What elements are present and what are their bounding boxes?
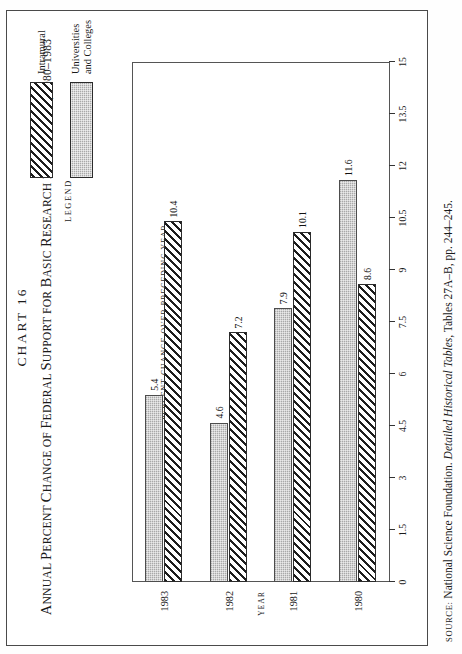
axis-tick-label: 1.5	[397, 524, 408, 536]
axis-tick	[389, 373, 395, 374]
bar-value-label: 10.1	[297, 211, 308, 228]
bar-1982-intramural: 7.2	[229, 332, 247, 582]
axis-tick-label: 7.5	[397, 316, 408, 328]
axis-tick	[389, 165, 395, 166]
year-label-1981: 1981	[288, 591, 299, 611]
bar-1980-intramural: 8.6	[358, 284, 376, 582]
legend-swatch-intramural	[30, 82, 53, 178]
chart-legend: LEGEND Intramural Universities and Colle…	[24, 22, 128, 222]
axis-tick-label: 3	[397, 476, 408, 481]
axis-tick-label: 10.5	[397, 210, 408, 227]
axis-tick-label: 4.5	[397, 420, 408, 432]
axis-tick	[389, 217, 395, 218]
legend-label-intramural: Intramural	[36, 30, 48, 74]
year-label-1983: 1983	[159, 591, 170, 611]
axis-tick	[389, 269, 395, 270]
source-title-italic: Detailed Historical Tables	[442, 338, 454, 460]
bar-1981-intramural: 10.1	[293, 232, 311, 582]
bar-value-label: 10.4	[168, 201, 179, 218]
axis-tick	[389, 61, 395, 62]
source-text-before: National Science Foundation.	[442, 459, 454, 601]
chart-title-text: A	[38, 605, 54, 616]
plot-area: 01.534.567.5910.51213.515 PERCENT CHANGE…	[132, 62, 390, 582]
axis-tick-label: 0	[397, 580, 408, 585]
legend-label-universities-line1: Universities	[70, 24, 81, 74]
legend-swatch-universities	[70, 82, 93, 178]
axis-tick	[389, 529, 395, 530]
legend-entry-universities: Universities and Colleges	[70, 20, 93, 178]
year-label-1982: 1982	[223, 591, 234, 611]
bar-1981-universities: 7.9	[274, 308, 292, 582]
axis-tick	[389, 321, 395, 322]
bar-value-label: 8.6	[361, 268, 372, 280]
bar-1983-universities: 5.4	[145, 395, 163, 582]
bar-1982-universities: 4.6	[210, 423, 228, 582]
source-text-after: , Tables 27A–B, pp. 244–245.	[442, 200, 454, 338]
rotated-page-container: CHART 16 Annual Percent Change of Federa…	[0, 0, 462, 654]
axis-tick-label: 13.5	[397, 106, 408, 123]
legend-label-universities-line2: and Colleges	[82, 20, 93, 74]
axis-tick	[389, 113, 395, 114]
bar-1983-intramural: 10.4	[164, 221, 182, 582]
bar-1980-universities: 11.6	[339, 180, 357, 582]
category-axis-title: YEAR	[257, 591, 266, 616]
axis-tick-label: 12	[397, 161, 408, 171]
bar-value-label: 4.6	[213, 407, 224, 419]
axis-tick	[389, 581, 395, 582]
legend-heading: LEGEND	[64, 179, 73, 222]
bar-value-label: 5.4	[149, 379, 160, 391]
legend-entry-intramural: Intramural	[30, 30, 53, 178]
source-label: SOURCE:	[444, 602, 454, 643]
bar-value-label: 7.9	[278, 292, 289, 304]
axis-tick	[389, 477, 395, 478]
bar-value-label: 11.6	[342, 159, 353, 175]
axis-tick-label: 15	[397, 57, 408, 67]
figure-page: CHART 16 Annual Percent Change of Federa…	[0, 0, 462, 654]
bar-value-label: 7.2	[232, 316, 243, 328]
year-label-1980: 1980	[352, 591, 363, 611]
axis-tick	[389, 425, 395, 426]
source-note: SOURCE: National Science Foundation. Det…	[442, 200, 454, 642]
legend-label-universities: Universities and Colleges	[70, 20, 93, 74]
axis-tick-label: 9	[397, 268, 408, 273]
axis-tick-label: 6	[397, 372, 408, 377]
value-axis: 01.534.567.5910.51213.515	[389, 62, 390, 582]
